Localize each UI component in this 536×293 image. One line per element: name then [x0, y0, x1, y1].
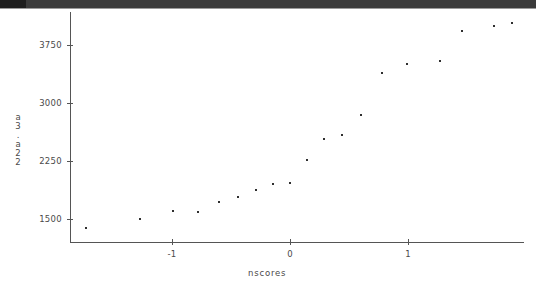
x-axis-title: nscores [248, 268, 286, 278]
data-point [323, 138, 325, 140]
chart-window: 1500225030003750-101nscoresa3.a22 [0, 0, 536, 293]
data-point [406, 63, 408, 65]
y-axis-tick-label: 1500 [22, 214, 62, 224]
y-axis-tick [67, 103, 73, 104]
x-axis-tick [172, 239, 173, 245]
data-point [289, 182, 291, 184]
y-axis-tick [67, 161, 73, 162]
y-axis-tick-label: 3750 [22, 40, 62, 50]
x-axis-tick-label: -1 [152, 249, 192, 259]
x-axis-tick [408, 239, 409, 245]
data-point [511, 22, 513, 24]
data-point [493, 25, 495, 27]
x-axis-tick [290, 239, 291, 245]
data-point [306, 159, 308, 161]
y-axis-tick [67, 219, 73, 220]
data-point [197, 211, 199, 213]
x-axis-line [70, 242, 524, 243]
data-point [360, 114, 362, 116]
x-axis-tick-label: 1 [388, 249, 428, 259]
data-point [255, 189, 257, 191]
y-axis-tick [67, 45, 73, 46]
data-point [218, 201, 220, 203]
data-point [381, 72, 383, 74]
data-point [237, 196, 239, 198]
y-axis-tick-label: 3000 [22, 98, 62, 108]
y-axis-title-char: 2 [12, 158, 24, 167]
x-axis-tick-label: 0 [270, 249, 310, 259]
y-axis-title: a3.a22 [12, 113, 24, 167]
data-point [272, 183, 274, 185]
y-axis-tick-label: 2250 [22, 156, 62, 166]
data-point [461, 30, 463, 32]
data-point [85, 227, 87, 229]
y-axis-line [70, 12, 71, 242]
data-point [172, 210, 174, 212]
scatter-plot: 1500225030003750-101nscoresa3.a22 [0, 0, 536, 293]
data-point [139, 218, 141, 220]
data-point [439, 60, 441, 62]
data-point [341, 134, 343, 136]
